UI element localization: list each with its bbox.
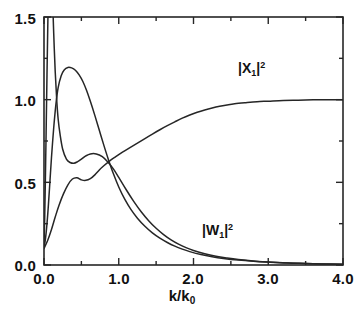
X1-label-main: |X <box>238 60 251 76</box>
y-tick-label-1.5: 1.5 <box>0 10 36 27</box>
series-|X1|^2 <box>44 67 343 264</box>
curves-group <box>44 0 343 264</box>
X1-label-superscript: 2 <box>260 60 265 70</box>
W1-label-superscript: 2 <box>228 222 233 232</box>
chart-figure: 1.5 1.0 0.5 0.0 0.0 1.0 2.0 3.0 4.0 k/k0… <box>0 0 364 320</box>
x-tick-label-2.0: 2.0 <box>171 270 215 287</box>
y-tick-label-0.5: 0.5 <box>0 175 36 192</box>
x-tick-label-4.0: 4.0 <box>321 270 364 287</box>
W1-label-main: |W <box>202 222 219 238</box>
x-axis-title-main: k/k <box>169 287 190 304</box>
X1-curve-label: |X1|2 <box>238 60 265 78</box>
series-|X1|^2-rising <box>44 100 343 249</box>
x-tick-label-3.0: 3.0 <box>246 270 290 287</box>
x-axis-title-subscript: 0 <box>190 295 196 306</box>
series-|W1|^2 <box>44 0 343 264</box>
plot-frame <box>44 17 343 265</box>
axis-ticks-group <box>44 17 343 265</box>
x-tick-label-0.0: 0.0 <box>22 270 66 287</box>
y-tick-label-1.0: 1.0 <box>0 92 36 109</box>
W1-curve-label: |W1|2 <box>202 222 233 240</box>
x-axis-title: k/k0 <box>0 287 364 306</box>
x-tick-label-1.0: 1.0 <box>97 270 141 287</box>
